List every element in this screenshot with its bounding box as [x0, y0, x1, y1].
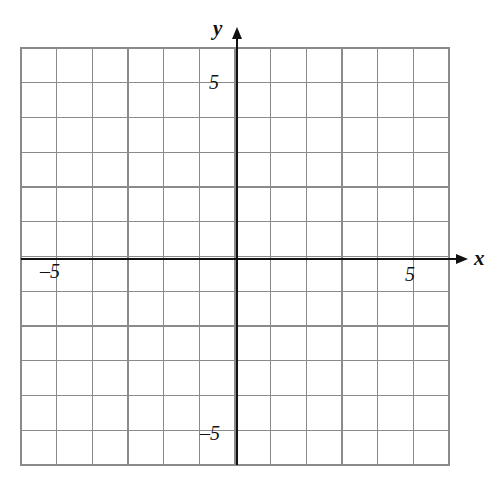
- x-axis-tick-label-negative-5: –5: [40, 261, 60, 281]
- axis-lines: [21, 36, 459, 465]
- y-axis-label: y: [213, 18, 222, 39]
- y-axis-tick-label-negative-5: –5: [200, 423, 220, 443]
- axis-arrowheads: [232, 27, 468, 264]
- x-axis-tick-label-positive-5: 5: [405, 264, 415, 284]
- grid-svg: [0, 0, 494, 478]
- y-axis-arrowhead: [232, 27, 242, 39]
- x-axis-arrowhead: [456, 254, 468, 264]
- y-axis-tick-label-positive-5: 5: [209, 72, 219, 92]
- coordinate-grid-figure: y x 5 –5 5 –5: [0, 0, 494, 478]
- x-axis-label: x: [474, 248, 485, 269]
